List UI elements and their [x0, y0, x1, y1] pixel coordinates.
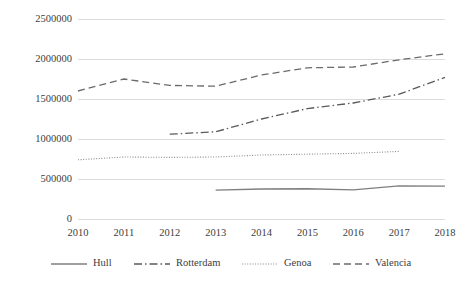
x-axis-label: 2011: [102, 227, 146, 238]
legend-label-genoa: Genoa: [284, 257, 311, 268]
legend-label-hull: Hull: [93, 257, 112, 268]
y-axis-label: 1000000: [35, 133, 72, 144]
legend-label-rotterdam: Rotterdam: [176, 257, 220, 268]
y-axis-label: 1500000: [35, 93, 72, 104]
x-axis-label: 2015: [285, 227, 329, 238]
x-axis-label: 2010: [56, 227, 100, 238]
y-axis-label: 2000000: [35, 53, 72, 64]
x-axis-label: 2018: [423, 227, 462, 238]
series-line-hull: [216, 186, 445, 190]
x-axis-label: 2014: [240, 227, 284, 238]
x-axis-label: 2013: [194, 227, 238, 238]
series-line-genoa: [78, 151, 399, 159]
x-axis-label: 2016: [331, 227, 375, 238]
legend-label-valencia: Valencia: [375, 257, 411, 268]
x-axis-label: 2012: [148, 227, 192, 238]
x-axis-label: 2017: [377, 227, 421, 238]
y-axis-label: 0: [67, 213, 72, 224]
series-lines: [78, 54, 445, 190]
y-axis-label: 500000: [41, 173, 73, 184]
line-chart: 25000002000000150000010000005000000 2010…: [0, 0, 462, 283]
y-axis-label: 2500000: [35, 13, 72, 24]
